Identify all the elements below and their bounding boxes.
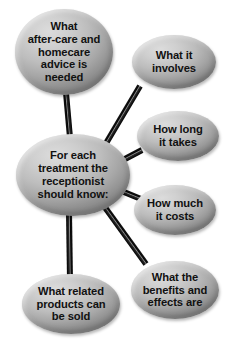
node-how-much-it-costs[interactable]: How much it costs [134,185,216,235]
node-related-products[interactable]: What related products can be sold [22,274,120,334]
node-after-care[interactable]: What after-care and homecare advice is n… [15,9,113,95]
node-benefits-and-effects-label: What the benefits and effects are [131,271,219,310]
node-how-long-it-takes-label: How long it takes [137,123,219,149]
node-after-care-label: What after-care and homecare advice is n… [15,20,113,85]
node-central-topic-label: For each treatment the receptionist shou… [16,149,130,201]
mind-map-diagram: For each treatment the receptionist shou… [0,0,231,349]
node-how-long-it-takes[interactable]: How long it takes [137,111,219,161]
node-what-it-involves-label: What it involves [132,49,216,75]
node-benefits-and-effects[interactable]: What the benefits and effects are [131,261,219,319]
node-related-products-label: What related products can be sold [22,285,120,324]
node-what-it-involves[interactable]: What it involves [132,35,216,89]
node-how-much-it-costs-label: How much it costs [134,197,216,223]
node-layer: For each treatment the receptionist shou… [0,0,231,349]
node-central-topic[interactable]: For each treatment the receptionist shou… [16,134,130,216]
caption-strip [0,340,231,349]
